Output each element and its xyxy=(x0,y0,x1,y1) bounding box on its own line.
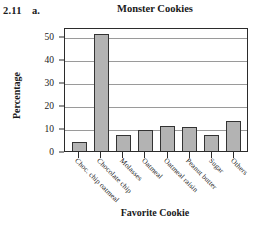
y-tick-label: 20 xyxy=(45,101,55,111)
x-tick-label: Oatmeal raisin xyxy=(160,159,175,205)
x-tick-label: Others xyxy=(226,159,241,205)
bar-series xyxy=(65,29,247,151)
x-tick-label: Oatmeal xyxy=(137,159,152,205)
x-axis-ticks xyxy=(64,152,248,158)
bar xyxy=(72,142,87,151)
y-tick-label: 0 xyxy=(49,147,54,157)
bar xyxy=(138,130,153,151)
bar xyxy=(204,135,219,151)
plot-area xyxy=(64,28,248,152)
x-tick-label: Molasses xyxy=(115,159,130,205)
chart-figure: 2.11 a. Monster Cookies Percentage 01020… xyxy=(0,0,273,225)
y-tick-label: 10 xyxy=(45,124,55,134)
bar xyxy=(182,127,197,151)
bar xyxy=(160,126,175,151)
y-tick-label: 40 xyxy=(45,55,55,65)
x-axis-title: Favorite Cookie xyxy=(60,207,250,218)
x-tick-label: Peanut butter xyxy=(182,159,197,205)
y-tick-label: 50 xyxy=(45,32,55,42)
x-axis-tick-labels: Choc. chip oatmealChocolate chipMolasses… xyxy=(64,159,248,205)
y-axis-title: Percentage xyxy=(11,56,22,136)
x-tick-label: Choc. chip oatmeal xyxy=(71,159,86,205)
y-axis: Percentage 01020304050 xyxy=(0,0,64,225)
bar xyxy=(226,121,241,151)
bar xyxy=(116,135,131,151)
chart-title: Monster Cookies xyxy=(60,3,250,14)
x-tick-label: Chocolate chip xyxy=(93,159,108,205)
x-tick-label: Sugar xyxy=(204,159,219,205)
y-tick-label: 30 xyxy=(45,78,55,88)
bar xyxy=(94,34,109,151)
